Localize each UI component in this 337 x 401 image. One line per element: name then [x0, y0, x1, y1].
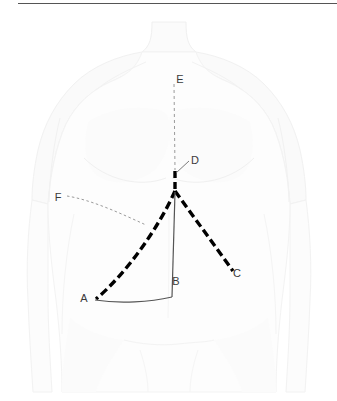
- right-arm-shape: [286, 200, 311, 392]
- left-arm-shape: [27, 200, 52, 392]
- figure-page: A B C D E F: [0, 0, 337, 401]
- torso-landmark-figure: A B C D E F: [0, 0, 337, 401]
- label-b: B: [172, 275, 179, 287]
- label-e: E: [176, 73, 183, 85]
- label-a: A: [80, 292, 88, 304]
- label-c: C: [233, 267, 241, 279]
- label-f: F: [55, 191, 62, 203]
- neck-shape: [142, 22, 196, 52]
- label-d: D: [191, 154, 199, 166]
